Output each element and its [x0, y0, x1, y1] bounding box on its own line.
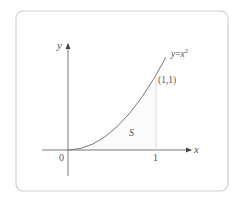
- x-tick-label-1: 1: [153, 152, 158, 163]
- y-axis-label: y: [56, 39, 62, 51]
- frame-border: [16, 11, 228, 191]
- x-axis-label: x: [193, 143, 199, 155]
- diagram-canvas: y x 0 1 S (1,1) y=x2: [0, 0, 243, 204]
- origin-label: 0: [59, 152, 64, 163]
- region-label-s: S: [129, 127, 134, 138]
- point-label: (1,1): [158, 75, 176, 86]
